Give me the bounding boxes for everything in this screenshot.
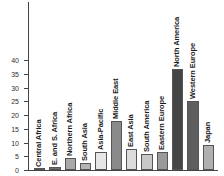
y-axis-tick: 5 <box>24 156 28 157</box>
y-axis-tick-label: 15 <box>11 125 19 132</box>
bar-category-label: South Asia <box>81 123 89 161</box>
y-axis-tick: 0 <box>24 170 28 171</box>
bar-category-label: Northern Africa <box>66 103 74 156</box>
bar-category-label: Middle East <box>112 78 120 119</box>
y-axis-tick: 40 <box>24 60 28 61</box>
bar <box>111 121 122 171</box>
bar-category-label: Central Africa <box>35 119 43 167</box>
bar-category-label: Asia-Pacific <box>97 108 105 149</box>
y-axis-tick-label: 40 <box>11 57 19 64</box>
y-axis-tick-label: 5 <box>15 153 19 160</box>
plot-area: 0510152025303540 Central AfricaE. and S.… <box>28 2 218 171</box>
y-axis-tick: 15 <box>24 129 28 130</box>
bar <box>34 168 45 170</box>
y-axis-tick: 30 <box>24 88 28 89</box>
bar-category-label: North America <box>173 17 181 67</box>
bar <box>172 69 183 170</box>
y-axis-tick-label: 35 <box>11 70 19 77</box>
bar <box>126 149 137 170</box>
y-axis-tick-label: 30 <box>11 84 19 91</box>
bar-category-label: East Asia <box>127 114 135 147</box>
bar <box>157 152 168 170</box>
bar <box>95 152 106 170</box>
bar-category-label: Japan <box>204 122 212 143</box>
bar-category-label: Eastern Europe <box>158 96 166 150</box>
y-axis-tick: 25 <box>24 101 28 102</box>
y-axis-tick-label: 20 <box>11 112 19 119</box>
y-axis-tick: 20 <box>24 115 28 116</box>
bar <box>65 158 76 170</box>
bar-category-label: South America <box>143 100 151 151</box>
y-axis-tick-label: 0 <box>15 167 19 174</box>
bar <box>49 167 60 170</box>
y-axis-tick: 10 <box>24 143 28 144</box>
y-axis-tick-label: 25 <box>11 98 19 105</box>
bar <box>187 101 198 170</box>
y-axis-line <box>28 2 29 171</box>
bar-category-label: Western Europe <box>189 43 197 99</box>
x-axis-line <box>28 170 218 171</box>
y-axis-tick: 35 <box>24 74 28 75</box>
chart-figure: 0510152025303540 Central AfricaE. and S.… <box>0 0 224 176</box>
bar <box>141 154 152 171</box>
y-axis-tick-label: 10 <box>11 139 19 146</box>
bar-category-label: E. and S. Africa <box>51 112 59 165</box>
bar <box>80 163 91 170</box>
bar <box>203 145 214 170</box>
